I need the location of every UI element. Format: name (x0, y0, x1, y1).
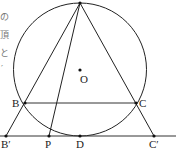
side-text-2: 頂 (0, 30, 9, 40)
label-c-prime: C′ (149, 138, 159, 150)
side-text-4: ′ (1, 64, 3, 74)
segment-ac-prime (80, 3, 154, 136)
label-b-prime: B′ (1, 138, 11, 150)
label-p: P (45, 138, 51, 150)
side-text-3: と (0, 48, 9, 58)
side-text-1: の (0, 12, 9, 22)
label-d: D (76, 138, 84, 150)
point-c (134, 101, 137, 104)
label-b: B (12, 97, 19, 109)
segment-ap (49, 3, 80, 136)
segment-ab-prime (6, 3, 80, 136)
point-a (78, 1, 81, 4)
geometry-diagram: O B C B′ P D C′ の 頂 と ′ (0, 0, 178, 150)
label-o: O (80, 73, 88, 85)
point-b (23, 101, 26, 104)
point-o (78, 68, 81, 71)
label-c: C (139, 97, 146, 109)
